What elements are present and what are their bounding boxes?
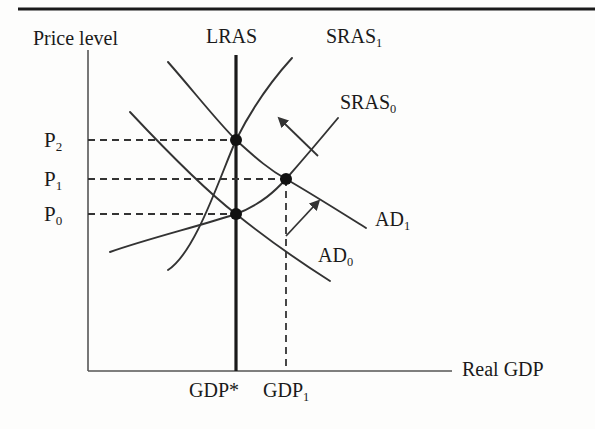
- sras1-label-sub: 1: [376, 36, 382, 50]
- price-tick-p2-text: P: [44, 128, 56, 152]
- price-tick-p2-sub: 2: [56, 139, 63, 154]
- ad1-curve: [168, 62, 366, 228]
- sras1-curve: [168, 58, 292, 270]
- gdp-tick-1-text: GDP: [263, 379, 303, 401]
- ad0-label: AD0: [318, 245, 353, 268]
- ad1-label: AD1: [375, 209, 410, 232]
- sras1-label: SRAS1: [326, 26, 382, 49]
- price-tick-p2: P2: [44, 130, 62, 153]
- price-tick-p0: P0: [44, 204, 62, 227]
- lras-label: LRAS: [206, 26, 257, 46]
- sras0-curve: [110, 118, 338, 252]
- ad1-label-text: AD: [375, 208, 404, 230]
- ad1-label-sub: 1: [404, 219, 410, 233]
- price-tick-p1-sub: 1: [56, 178, 63, 193]
- gdp-tick-star: GDP*: [189, 380, 239, 400]
- sras0-label: SRAS0: [340, 92, 396, 115]
- gdp-tick-1: GDP1: [263, 380, 309, 403]
- price-tick-p0-text: P: [44, 202, 56, 226]
- ad-shift-arrow: [286, 206, 314, 236]
- gdp-tick-1-sub: 1: [303, 390, 309, 404]
- equilibrium-point-e0: [230, 208, 242, 220]
- sras0-label-sub: 0: [390, 102, 396, 116]
- y-axis-label: Price level: [33, 28, 118, 48]
- price-tick-p0-sub: 0: [56, 213, 63, 228]
- ad0-label-text: AD: [318, 244, 347, 266]
- sras0-label-text: SRAS: [340, 91, 390, 113]
- figure-canvas: Price level Real GDP LRAS SRAS1 SRAS0 AD…: [0, 0, 595, 429]
- sras1-label-text: SRAS: [326, 25, 376, 47]
- equilibrium-point-e2: [230, 134, 242, 146]
- price-tick-p1-text: P: [44, 167, 56, 191]
- x-axis-label: Real GDP: [462, 359, 544, 379]
- sras-shift-arrow: [284, 123, 318, 156]
- equilibrium-point-e1: [280, 173, 292, 185]
- ad0-label-sub: 0: [347, 255, 353, 269]
- price-tick-p1: P1: [44, 169, 62, 192]
